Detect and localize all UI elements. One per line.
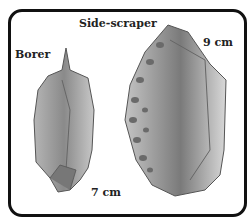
stone-tools-illustration bbox=[0, 0, 250, 221]
borer-size-label: 7 cm bbox=[91, 186, 121, 199]
side-scraper-tool bbox=[125, 25, 226, 196]
side-scraper-label: Side-scraper bbox=[79, 17, 157, 30]
borer-tool bbox=[34, 48, 94, 192]
side-scraper-size-label: 9 cm bbox=[203, 36, 233, 49]
borer-label: Borer bbox=[15, 48, 50, 61]
